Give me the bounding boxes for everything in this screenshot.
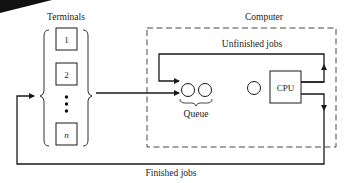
time-sharing-diagram: Terminals 1 2 n Computer Unfinished jobs… (0, 0, 353, 183)
ellipsis-dots (65, 95, 68, 112)
computer-label: Computer (245, 12, 284, 22)
queue-label: Queue (184, 109, 209, 119)
terminals-label: Terminals (47, 12, 85, 22)
cpu-box: CPU (270, 71, 301, 103)
queue-brace (180, 99, 212, 106)
unfinished-up-arrow-icon (321, 64, 327, 70)
terminal-n: n (56, 123, 77, 145)
page-corner-shadow (0, 0, 52, 13)
terminals-right-brace (83, 30, 92, 146)
queue-job-2 (199, 84, 212, 97)
next-job (248, 82, 261, 95)
queue-job-1 (182, 84, 195, 97)
terminals-left-brace (40, 30, 49, 146)
cpu-label: CPU (277, 83, 295, 93)
terminal-n-label: n (64, 130, 69, 140)
finished-jobs-label: Finished jobs (146, 168, 197, 178)
terminal-2-label: 2 (64, 70, 69, 80)
terminal-2: 2 (56, 63, 77, 85)
finished-down-arrow-icon (321, 105, 327, 111)
terminal-1: 1 (56, 28, 77, 50)
terminal-1-label: 1 (64, 35, 69, 45)
unfinished-jobs-label: Unfinished jobs (222, 39, 283, 49)
